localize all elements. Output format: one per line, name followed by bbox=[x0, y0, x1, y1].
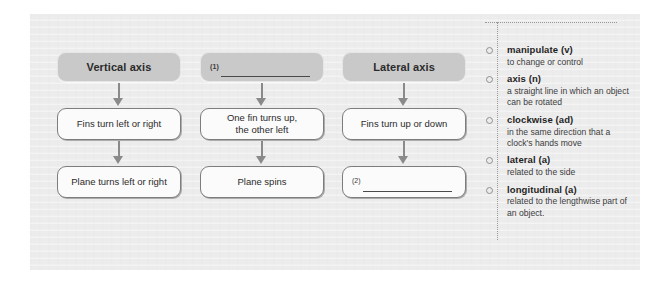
arrow-head-icon bbox=[113, 98, 123, 106]
answer-blank-2[interactable] bbox=[363, 179, 452, 192]
flow-column-blank-axis: (1) One fin turns up, the other left Pla… bbox=[200, 52, 324, 198]
glossary-entry: clockwise (ad) in the same direction tha… bbox=[507, 114, 635, 150]
glossary-term: axis (n) bbox=[507, 73, 635, 85]
arrow-head-icon bbox=[398, 98, 408, 106]
question-number-1: (1) bbox=[210, 63, 219, 72]
flow-step-box: One fin turns up, the other left bbox=[200, 108, 324, 140]
bullet-circle-icon bbox=[486, 47, 493, 54]
flow-arrow bbox=[342, 140, 466, 166]
flow-step-label: Fins turn left or right bbox=[77, 118, 161, 130]
glossary-definition: in the same direction that a clock's han… bbox=[507, 127, 635, 150]
glossary-entry: longitudinal (a) related to the lengthwi… bbox=[507, 184, 635, 220]
flow-column-vertical-axis: Vertical axis Fins turn left or right Pl… bbox=[57, 52, 181, 198]
glossary-panel: manipulate (v) to change or control axis… bbox=[485, 22, 635, 224]
arrow-head-icon bbox=[256, 156, 266, 164]
flow-step-label: One fin turns up, the other left bbox=[227, 112, 297, 136]
flow-step-label: Plane turns left or right bbox=[71, 176, 167, 188]
bullet-circle-icon bbox=[486, 187, 493, 194]
glossary-entry: lateral (a) related to the side bbox=[507, 154, 635, 178]
flow-step-label: Plane spins bbox=[237, 176, 286, 188]
worksheet-page: Vertical axis Fins turn left or right Pl… bbox=[30, 14, 640, 270]
glossary-entry: manipulate (v) to change or control bbox=[507, 44, 635, 68]
flow-arrow bbox=[342, 82, 466, 108]
glossary-definition: to change or control bbox=[507, 57, 635, 68]
flow-arrow bbox=[57, 140, 181, 166]
question-number-2: (2) bbox=[352, 177, 361, 186]
flow-arrow bbox=[200, 140, 324, 166]
bullet-circle-icon bbox=[486, 76, 493, 83]
flow-step-box: Fins turn up or down bbox=[342, 108, 466, 140]
flow-step-box: Plane turns left or right bbox=[57, 166, 181, 198]
flow-column-lateral-axis: Lateral axis Fins turn up or down (2) bbox=[342, 52, 466, 198]
glossary-definition: related to the side bbox=[507, 167, 635, 178]
answer-blank-1[interactable] bbox=[221, 64, 310, 77]
flow-header-label: Vertical axis bbox=[87, 60, 152, 74]
flow-header-box: Lateral axis bbox=[342, 52, 466, 82]
flow-step-box-blank[interactable]: (2) bbox=[342, 166, 466, 198]
arrow-head-icon bbox=[256, 98, 266, 106]
flow-step-box: Fins turn left or right bbox=[57, 108, 181, 140]
glossary-term: clockwise (ad) bbox=[507, 114, 635, 126]
bullet-circle-icon bbox=[486, 117, 493, 124]
arrow-head-icon bbox=[113, 156, 123, 164]
flow-header-label: Lateral axis bbox=[373, 60, 435, 74]
glossary-entry: axis (n) a straight line in which an obj… bbox=[507, 73, 635, 109]
glossary-term: manipulate (v) bbox=[507, 44, 635, 56]
flow-header-box: Vertical axis bbox=[57, 52, 181, 82]
bullet-circle-icon bbox=[486, 157, 493, 164]
flow-step-label: Fins turn up or down bbox=[361, 118, 448, 130]
glossary-term: longitudinal (a) bbox=[507, 184, 635, 196]
glossary-term: lateral (a) bbox=[507, 154, 635, 166]
glossary-definition: a straight line in which an object can b… bbox=[507, 86, 635, 109]
flow-arrow bbox=[200, 82, 324, 108]
flow-header-box-blank[interactable]: (1) bbox=[200, 52, 324, 82]
arrow-head-icon bbox=[398, 156, 408, 164]
glossary-definition: related to the lengthwise part of an obj… bbox=[507, 196, 635, 219]
flow-step-box: Plane spins bbox=[200, 166, 324, 198]
flow-arrow bbox=[57, 82, 181, 108]
